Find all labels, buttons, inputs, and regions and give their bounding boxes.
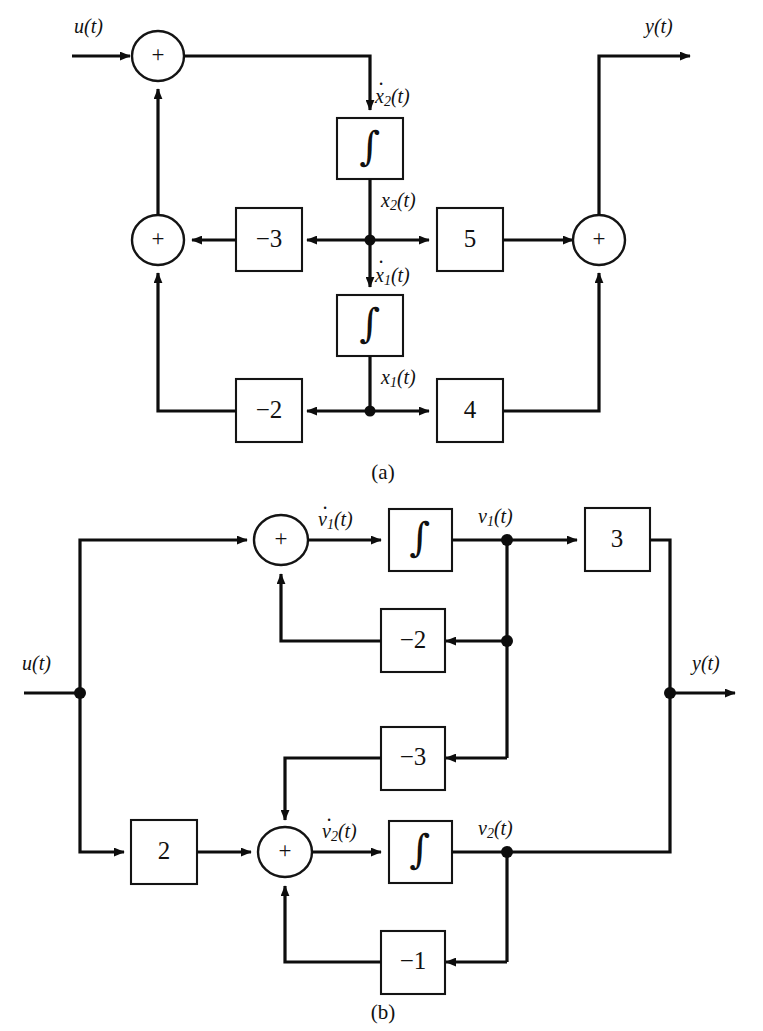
- wire-gain-minus3-to-summer-v2: [285, 758, 381, 820]
- x1-base: x: [380, 366, 390, 388]
- x1dot-text: x1(t): [374, 264, 410, 289]
- wire-u-to-summer-v1: [80, 540, 247, 693]
- wire-u-to-gain-2: [80, 693, 124, 852]
- x2dot-text: x2(t): [374, 85, 410, 110]
- v1dot-arg: (t): [334, 508, 353, 531]
- wire-output-summer-to-y-a: [599, 56, 690, 215]
- x2dot-sub: 2: [384, 94, 391, 109]
- v2dot-arg: (t): [338, 820, 357, 843]
- label-v1: v1(t): [478, 505, 513, 530]
- x2-base: x: [380, 189, 390, 211]
- gain-minus2-label-b: −2: [400, 626, 427, 653]
- gain-minus2-label-a: −2: [256, 396, 283, 423]
- gain-minus3-label-b: −3: [400, 743, 427, 770]
- v2-sub: 2: [487, 826, 494, 841]
- gain-4-label-a: 4: [464, 396, 477, 423]
- gain-2-label-b: 2: [158, 837, 171, 864]
- x1-sub: 1: [390, 375, 397, 390]
- caption-a: (a): [371, 460, 394, 484]
- x2-sub: 2: [390, 198, 397, 213]
- summer-v2-sign-b: +: [279, 838, 292, 863]
- x1-arg: (t): [397, 366, 416, 389]
- input-label-u-b: u(t): [22, 652, 51, 675]
- integrator-x1-symbol: ∫: [360, 300, 381, 346]
- label-x2dot: · x2(t): [374, 73, 410, 110]
- block-diagram-figure: + ∫ · x2(t) x2(t) −3: [0, 0, 763, 1031]
- figure-root: + ∫ · x2(t) x2(t) −3: [0, 0, 763, 1031]
- x1dot-arg: (t): [391, 264, 410, 287]
- x2dot-arg: (t): [391, 85, 410, 108]
- label-x1dot: · x1(t): [374, 251, 410, 289]
- v1dot-sub: 1: [327, 517, 334, 532]
- v1-arg: (t): [494, 505, 513, 528]
- v1dot-text: v1(t): [318, 508, 353, 533]
- label-v2dot: · v2(t): [322, 809, 357, 845]
- v2-arg: (t): [494, 817, 513, 840]
- integrator-x2-symbol: ∫: [360, 123, 381, 169]
- wire-gain-3-to-y-node: [650, 540, 670, 693]
- top-summer-sign-a: +: [152, 42, 165, 67]
- caption-b: (b): [371, 1000, 396, 1024]
- x1dot-sub: 1: [384, 273, 391, 288]
- v2dot-sub: 2: [331, 829, 338, 844]
- wire-top-summer-to-integrator-x2: [184, 56, 370, 110]
- v2dot-base: v: [322, 820, 331, 842]
- input-label-u-a: u(t): [74, 15, 103, 38]
- wire-gain-minus2-to-summer-v1: [281, 574, 381, 641]
- x2dot-base: x: [374, 85, 384, 107]
- output-label-y-a: y(t): [643, 15, 673, 38]
- wire-gain-minus1-to-summer-v2: [285, 886, 381, 962]
- label-x1: x1(t): [380, 366, 416, 391]
- x2-arg: (t): [397, 189, 416, 212]
- v1dot-base: v: [318, 508, 327, 530]
- integrator-v1-symbol: ∫: [410, 514, 431, 560]
- v1-base: v: [478, 505, 487, 527]
- panel-a: + ∫ · x2(t) x2(t) −3: [72, 15, 690, 484]
- v1-sub: 1: [487, 514, 494, 529]
- output-summer-sign-a: +: [593, 226, 606, 251]
- v2dot-text: v2(t): [322, 820, 357, 845]
- panel-b: + · v1(t) ∫ v1(t) 3: [22, 497, 735, 1024]
- x1dot-base: x: [374, 264, 384, 286]
- label-x2: x2(t): [380, 189, 416, 214]
- integrator-v2-symbol: ∫: [410, 826, 431, 872]
- gain-3-label-b: 3: [611, 525, 624, 552]
- label-v1dot: · v1(t): [318, 497, 353, 533]
- output-label-y-b: y(t): [690, 652, 720, 675]
- middle-summer-sign-a: +: [152, 226, 165, 251]
- v2-base: v: [478, 817, 487, 839]
- gain-5-label-a: 5: [464, 225, 477, 252]
- wire-gain-4-to-output-summer: [503, 273, 599, 411]
- summer-v1-sign-b: +: [275, 526, 288, 551]
- wire-v2-to-y-node: [507, 693, 670, 852]
- gain-minus3-label-a: −3: [256, 225, 283, 252]
- label-v2: v2(t): [478, 817, 513, 842]
- wire-gain-minus2-to-middle-summer: [158, 273, 236, 411]
- gain-minus1-label-b: −1: [400, 947, 427, 974]
